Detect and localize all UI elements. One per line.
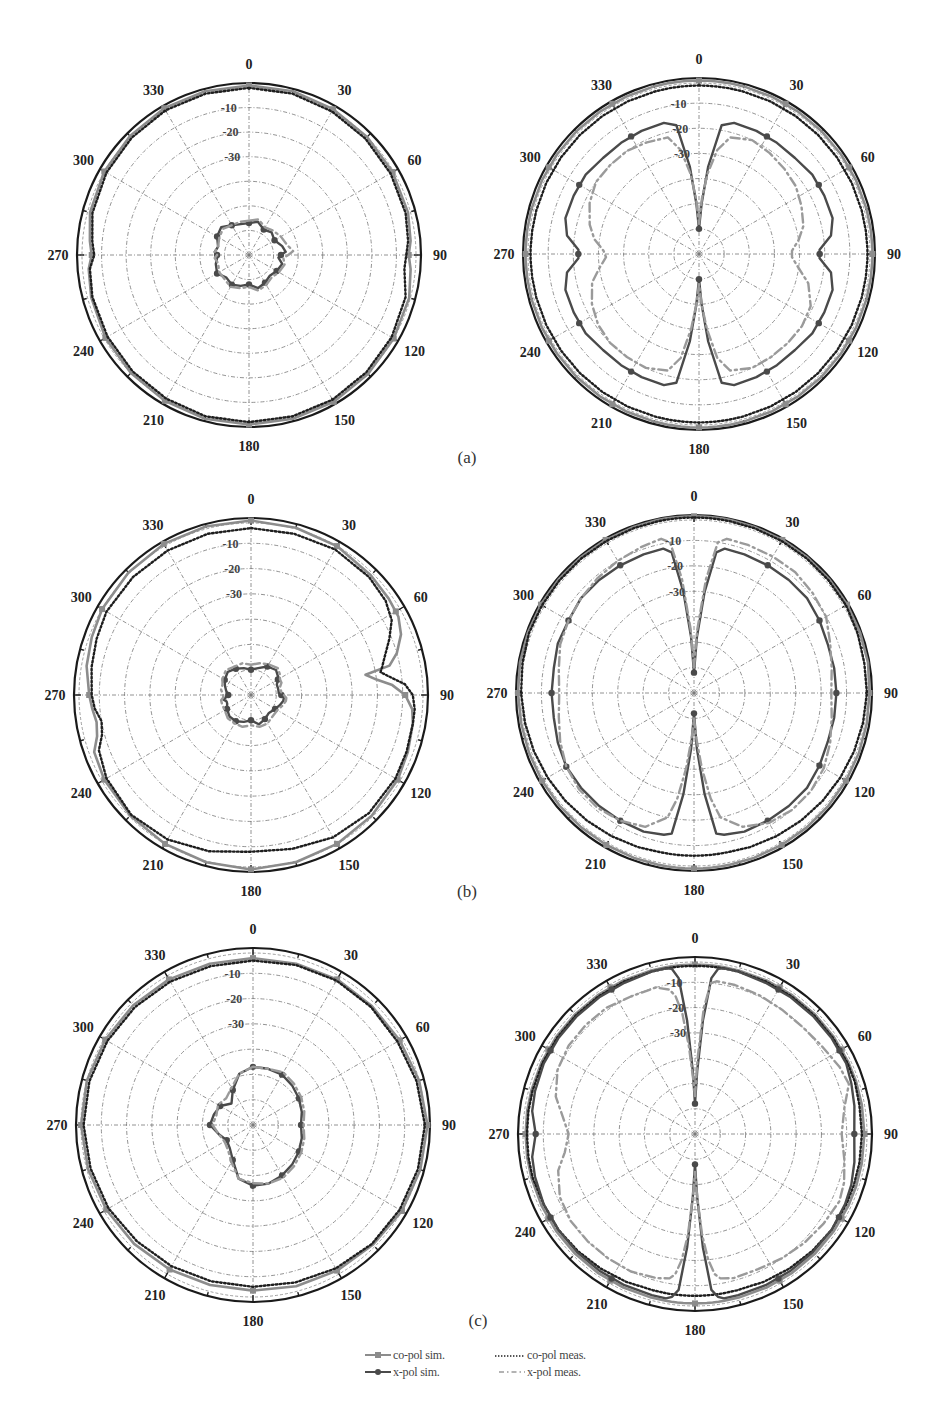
angle-tick-label: 330 — [145, 948, 166, 963]
marker-square — [248, 866, 254, 872]
angle-tick-label: 210 — [591, 416, 612, 431]
angle-tick-label: 300 — [513, 588, 534, 603]
angle-tick-label: 120 — [404, 344, 425, 359]
marker-square — [546, 164, 552, 170]
angle-tick-label: 150 — [782, 857, 803, 872]
polar-plot-b-left: 0306090120150180210240270300330-10-20-30 — [45, 492, 455, 899]
radial-tick-label: -20 — [667, 559, 683, 573]
angle-tick-label: 180 — [243, 1314, 264, 1329]
angle-tick-label: 120 — [410, 786, 431, 801]
radial-tick-label: -20 — [224, 562, 240, 576]
angle-tick-label: 270 — [487, 686, 508, 701]
angle-tick-label: 120 — [412, 1216, 433, 1231]
angle-tick-label: 240 — [520, 345, 541, 360]
marker-square — [691, 865, 697, 871]
angle-tick-label: 270 — [489, 1127, 510, 1142]
marker-circle — [548, 690, 554, 696]
marker-square — [250, 1288, 256, 1294]
marker-circle — [696, 276, 702, 282]
marker-circle — [775, 1275, 781, 1281]
marker-circle — [833, 690, 839, 696]
angle-tick-label: 120 — [854, 1225, 875, 1240]
marker-circle — [692, 1161, 698, 1167]
radial-tick-label: -30 — [224, 150, 240, 164]
angle-tick-label: 240 — [513, 785, 534, 800]
angle-tick-label: 90 — [884, 1127, 898, 1142]
radial-tick-label: -20 — [222, 125, 238, 139]
co-pol-meas-dotted-line-icon — [495, 1350, 525, 1360]
marker-circle — [608, 986, 614, 992]
polar-plots: 0306090120150180210240270300330-10-20-30… — [0, 0, 935, 1425]
angle-tick-label: 330 — [591, 78, 612, 93]
legend-item-x-pol-meas: x-pol meas. — [499, 1364, 581, 1380]
angle-tick-label: 330 — [143, 518, 164, 533]
angle-tick-label: 180 — [684, 883, 705, 898]
marker-square — [846, 164, 852, 170]
marker-circle — [816, 182, 822, 188]
series-x-sim — [224, 667, 284, 725]
radial-tick-label: -30 — [228, 1017, 244, 1031]
marker-square — [783, 401, 789, 407]
angle-tick-label: 300 — [73, 1020, 94, 1035]
marker-circle — [691, 710, 697, 716]
angle-tick-label: 210 — [143, 858, 164, 873]
marker-square — [523, 251, 529, 257]
radial-tick-label: -20 — [668, 1001, 684, 1015]
angle-tick-label: 120 — [854, 785, 875, 800]
marker-circle — [816, 320, 822, 326]
legend: co-pol sim. x-pol sim. co-pol meas. x-po… — [365, 1347, 625, 1381]
legend-item-x-pol-sim: x-pol sim. — [365, 1364, 440, 1380]
angle-tick-label: 270 — [47, 1118, 68, 1133]
angle-tick-label: 300 — [520, 150, 541, 165]
angle-tick-label: 60 — [416, 1020, 430, 1035]
marker-circle — [764, 133, 770, 139]
marker-circle — [608, 1275, 614, 1281]
marker-circle — [262, 716, 268, 722]
angle-tick-label: 180 — [685, 1323, 706, 1338]
polar-plot-b-right: 0306090120150180210240270300330-10-20-30 — [487, 489, 899, 898]
marker-square — [546, 338, 552, 344]
marker-square — [99, 606, 105, 612]
marker-circle — [248, 717, 254, 723]
angle-tick-label: 240 — [515, 1225, 536, 1240]
angle-tick-label: 30 — [790, 78, 804, 93]
angle-tick-label: 90 — [884, 686, 898, 701]
figure: 0306090120150180210240270300330-10-20-30… — [0, 0, 935, 1425]
polar-plot-a-left: 0306090120150180210240270300330-10-20-30 — [48, 57, 448, 454]
angle-tick-label: 30 — [786, 515, 800, 530]
marker-circle — [691, 669, 697, 675]
marker-square — [696, 78, 702, 84]
marker-circle — [278, 252, 284, 258]
angle-tick-label: 90 — [887, 247, 901, 262]
marker-circle — [775, 986, 781, 992]
x-pol-meas-dash-dot-line-icon — [499, 1367, 525, 1377]
angle-tick-label: 270 — [48, 248, 69, 263]
marker-square — [393, 608, 399, 614]
marker-circle — [696, 226, 702, 232]
marker-square — [609, 101, 615, 107]
angle-tick-label: 0 — [696, 52, 703, 67]
marker-square — [692, 1300, 698, 1306]
angle-tick-label: 240 — [73, 1216, 94, 1231]
angle-tick-label: 300 — [515, 1029, 536, 1044]
marker-circle — [617, 562, 623, 568]
angle-tick-label: 90 — [442, 1118, 456, 1133]
angle-tick-label: 270 — [494, 247, 515, 262]
marker-circle — [764, 368, 770, 374]
angle-tick-label: 180 — [239, 439, 260, 454]
marker-circle — [576, 320, 582, 326]
angle-tick-label: 0 — [246, 57, 253, 72]
radial-tick-label: -20 — [226, 992, 242, 1006]
angle-tick-label: 210 — [145, 1288, 166, 1303]
marker-square — [846, 338, 852, 344]
marker-circle — [836, 1214, 842, 1220]
angle-tick-label: 30 — [338, 83, 352, 98]
angle-tick-label: 60 — [414, 590, 428, 605]
radial-tick-label: -30 — [226, 587, 242, 601]
co-pol-sim-line-square-marker-icon — [365, 1350, 391, 1360]
angle-tick-label: 180 — [689, 442, 710, 457]
marker-circle — [692, 1100, 698, 1106]
radial-tick-label: -20 — [672, 122, 688, 136]
angle-tick-label: 0 — [691, 489, 698, 504]
angle-tick-label: 90 — [433, 248, 447, 263]
